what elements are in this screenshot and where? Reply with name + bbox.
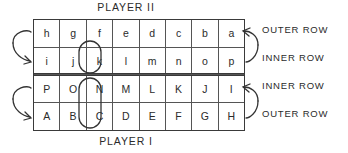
arrow-upper-right-icon (243, 28, 258, 62)
board-cell[interactable]: M (113, 75, 139, 103)
board-cell[interactable]: a (219, 20, 244, 48)
arrow-lower-right-icon (243, 84, 258, 118)
board-cell[interactable]: n (166, 48, 192, 76)
board-row: i j k l m n o p (34, 48, 244, 76)
board-cell[interactable]: e (113, 20, 139, 48)
board-cell[interactable]: K (166, 75, 192, 103)
board-cell[interactable]: H (219, 103, 244, 131)
board-cell[interactable]: A (34, 103, 60, 131)
board-cell[interactable]: d (140, 20, 166, 48)
player-two-title: PLAYER II (0, 1, 252, 13)
arrow-upper-left-icon (13, 31, 31, 64)
board-cell[interactable]: C (87, 103, 113, 131)
board-cell[interactable]: E (140, 103, 166, 131)
board-cell[interactable]: h (34, 20, 60, 48)
board-cell[interactable]: o (192, 48, 218, 76)
board-cell[interactable]: O (60, 75, 86, 103)
game-board-diagram: PLAYER II h g f e d c b a i j k l m n o … (0, 0, 348, 153)
board-cell[interactable]: G (192, 103, 218, 131)
board-cell[interactable]: J (192, 75, 218, 103)
board-cell[interactable]: N (87, 75, 113, 103)
row-label-inner-lower: INNER ROW (262, 80, 325, 91)
arrow-lower-left-icon (13, 87, 31, 120)
board-grid: h g f e d c b a i j k l m n o p P O N M … (33, 19, 245, 131)
board-cell[interactable]: D (113, 103, 139, 131)
board-cell[interactable]: c (166, 20, 192, 48)
board-cell[interactable]: j (60, 48, 86, 76)
board-cell[interactable]: i (34, 48, 60, 76)
board-cell[interactable]: L (140, 75, 166, 103)
board-cell[interactable]: p (219, 48, 244, 76)
board-row: A B C D E F G H (34, 103, 244, 131)
board-cell[interactable]: F (166, 103, 192, 131)
board-row: h g f e d c b a (34, 20, 244, 48)
board-cell[interactable]: g (60, 20, 86, 48)
row-label-outer-upper: OUTER ROW (262, 24, 328, 35)
row-label-inner-upper: INNER ROW (262, 52, 325, 63)
row-label-outer-lower: OUTER ROW (262, 108, 328, 119)
player-one-title: PLAYER I (0, 135, 252, 147)
board-row: P O N M L K J I (34, 75, 244, 103)
board-cell[interactable]: I (219, 75, 244, 103)
board-cell[interactable]: B (60, 103, 86, 131)
board-cell[interactable]: P (34, 75, 60, 103)
board-cell[interactable]: l (113, 48, 139, 76)
board-cell[interactable]: m (140, 48, 166, 76)
board-cell[interactable]: f (87, 20, 113, 48)
board-cell[interactable]: b (192, 20, 218, 48)
board-cell[interactable]: k (87, 48, 113, 76)
